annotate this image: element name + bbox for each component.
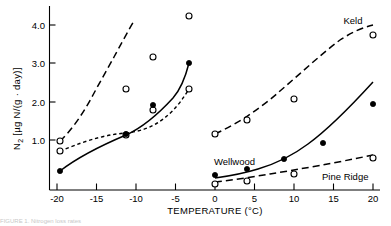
x-tick-label-neg10: -10 [129, 193, 143, 204]
pine-ridge-point-right-1 [212, 181, 218, 187]
x-tick-labels: -20 -15 -10 -5 0 5 10 15 20 [50, 193, 378, 204]
x-tick-label-5: 5 [252, 193, 257, 204]
y-axis-title: N2 [µg N/(g · day)] [11, 67, 24, 150]
figure-caption-fragment: FIGURE 1. Nitrogen loss rates [0, 217, 391, 226]
pine-ridge-point-right-4 [370, 155, 376, 161]
pine-ridge-point-left-4 [186, 86, 192, 92]
keld-point-right-3 [291, 96, 297, 102]
x-tick-label-neg20: -20 [50, 193, 64, 204]
wellwood-point-right-3 [281, 156, 286, 161]
wellwood-point-right-2 [244, 166, 249, 171]
wellwood-point-left-4 [186, 60, 191, 65]
scatter-plot-canvas: 4.0 3.0 2.0 1.0 -20 -15 -10 -5 0 5 10 1 [0, 0, 391, 226]
x-tick-label-20: 20 [368, 193, 379, 204]
y-tick-label-1: 1.0 [32, 135, 45, 146]
wellwood-point-right-4 [320, 140, 325, 145]
wellwood-point-left-3 [150, 102, 155, 107]
x-tick-label-neg15: -15 [90, 193, 104, 204]
svg-text:N2 [µg N/(g · day)]: N2 [µg N/(g · day)] [11, 67, 24, 150]
series-label-pine-ridge: Pine Ridge [322, 171, 368, 182]
x-tick-label-15: 15 [328, 193, 339, 204]
pine-ridge-point-right-3 [291, 171, 297, 177]
wellwood-point-right-5 [370, 101, 375, 106]
pine-ridge-point-left-1 [57, 148, 63, 154]
y-tick-label-2: 2.0 [32, 97, 45, 108]
x-tick-label-10: 10 [289, 193, 300, 204]
y-axis-title-units: [µg N/(g · day)] [11, 67, 22, 138]
keld-curve-left [60, 21, 134, 141]
x-axis-title: TEMPERATURE (°C) [167, 205, 263, 216]
series-keld [57, 13, 376, 144]
keld-point-right-4 [370, 32, 376, 38]
series-label-keld: Keld [343, 15, 362, 26]
x-tick-label-0: 0 [212, 193, 217, 204]
keld-point-right-1 [212, 131, 218, 137]
keld-point-left-3 [150, 54, 156, 60]
pine-ridge-curve-left [60, 89, 189, 151]
keld-curve-right [215, 25, 373, 134]
y-tick-label-4: 4.0 [32, 20, 45, 31]
wellwood-point-left-2 [123, 131, 128, 136]
keld-point-right-2 [244, 117, 250, 123]
y-axis-title-base: N [11, 143, 22, 150]
wellwood-point-left-1 [57, 168, 62, 173]
y-tick-label-3: 3.0 [32, 58, 45, 69]
x-tick-label-neg5: -5 [171, 193, 179, 204]
y-tick-labels: 4.0 3.0 2.0 1.0 [32, 20, 45, 146]
wellwood-point-right-1 [212, 172, 217, 177]
series-label-wellwood: Wellwood [214, 156, 255, 167]
y-tick-marks [50, 25, 56, 140]
pine-ridge-point-right-2 [244, 178, 250, 184]
wellwood-curve-left [60, 63, 189, 171]
keld-point-left-1 [57, 138, 63, 144]
keld-point-left-4 [186, 13, 192, 19]
keld-point-left-2 [123, 86, 129, 92]
chart-figure: 4.0 3.0 2.0 1.0 -20 -15 -10 -5 0 5 10 1 [0, 0, 391, 226]
